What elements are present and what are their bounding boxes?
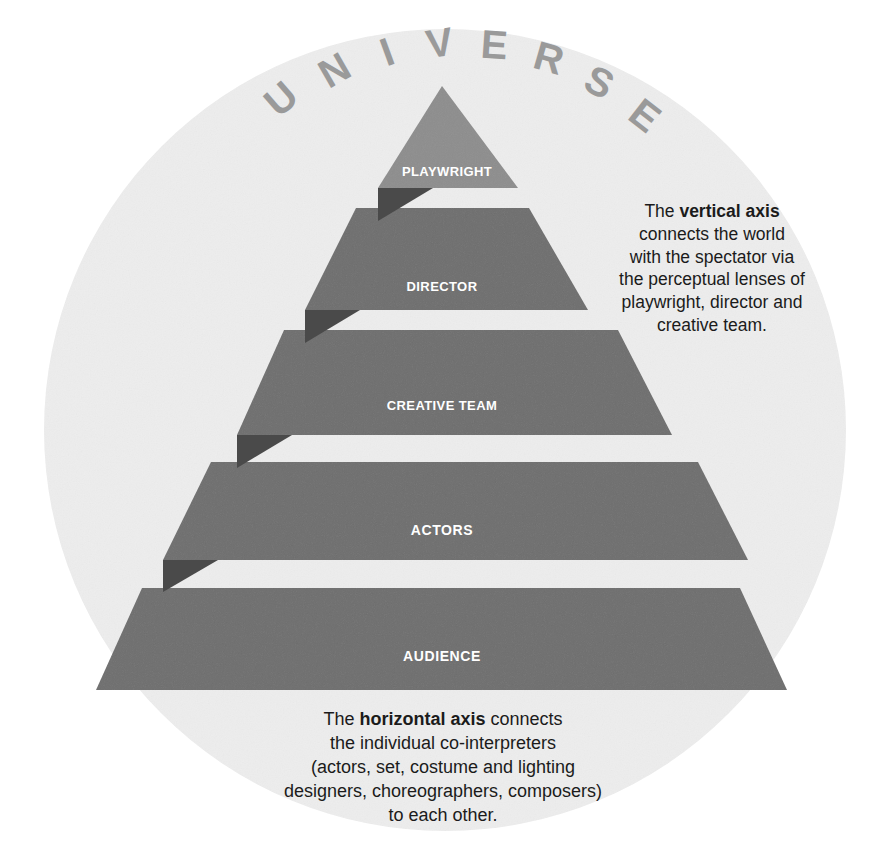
vertical-note-line-1-pre: The <box>644 201 679 221</box>
horizontal-note-line-4: designers, choreographers, composers) <box>178 779 708 803</box>
ring-letter-e1: E <box>479 22 509 68</box>
horizontal-note-line-5: to each other. <box>178 803 708 827</box>
horizontal-note-line-2: the individual co-interpreters <box>178 731 708 755</box>
horizontal-note-line-1-pre: The <box>323 709 359 729</box>
horizontal-note-line-1-post: connects <box>486 709 563 729</box>
vertical-note-line-4: the perceptual lenses of <box>596 268 828 291</box>
horizontal-note-line-3: (actors, set, costume and lighting <box>178 755 708 779</box>
vertical-axis-emphasis: vertical axis <box>679 201 779 221</box>
audience-label: AUDIENCE <box>403 648 481 664</box>
actors-label: ACTORS <box>411 522 473 538</box>
playwright-label: PLAYWRIGHT <box>402 164 492 179</box>
vertical-note-line-5: playwright, director and <box>596 291 828 314</box>
audience-band <box>96 588 787 690</box>
creative-team-band <box>237 330 672 435</box>
horizontal-axis-emphasis: horizontal axis <box>359 709 485 729</box>
vertical-note-line-2: connects the world <box>596 223 828 246</box>
creative-team-label: CREATIVE TEAM <box>387 398 497 413</box>
horizontal-note-line-1: The horizontal axis connects <box>178 707 708 731</box>
vertical-note-line-3: with the spectator via <box>596 246 828 269</box>
vertical-note-line-1: The vertical axis <box>596 200 828 223</box>
vertical-axis-note: The vertical axis connects the world wit… <box>596 200 828 337</box>
diagram-canvas: U N I V E R S E AUDIENCE ACTORS CREATIVE… <box>0 0 887 859</box>
horizontal-axis-note: The horizontal axis connects the individ… <box>178 707 708 828</box>
director-label: DIRECTOR <box>407 279 478 294</box>
pyramid-level-audience[interactable]: AUDIENCE <box>96 588 787 690</box>
vertical-note-line-6: creative team. <box>596 314 828 337</box>
actors-band <box>163 462 748 560</box>
